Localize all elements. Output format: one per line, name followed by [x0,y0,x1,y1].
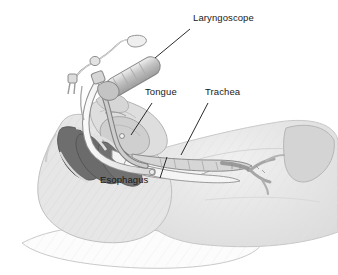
inflation-port [68,74,77,94]
label-laryngoscope: Laryngoscope [193,12,254,23]
anatomy-illustration [0,0,338,275]
label-esophagus: Esophagus [100,174,148,185]
illustration-canvas: Laryngoscope Tongue Trachea Esophagus [0,0,338,275]
label-trachea: Trachea [205,86,240,97]
pilot-balloon [127,35,146,47]
leader-laryngoscope [155,29,190,58]
label-tongue: Tongue [145,86,177,97]
